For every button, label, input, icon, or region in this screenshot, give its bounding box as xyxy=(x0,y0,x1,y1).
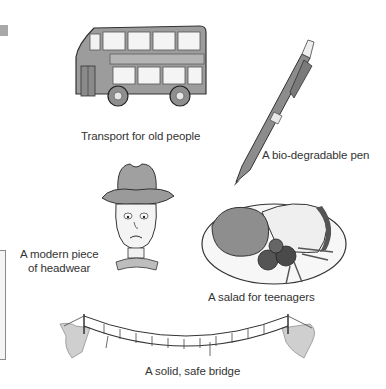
caption-pen: A bio-degradable pen xyxy=(262,148,369,162)
page-edge-tab xyxy=(0,25,8,36)
ballpoint-pen-icon xyxy=(232,36,322,186)
caption-hat-line1: A modern piece xyxy=(20,247,99,261)
caption-bridge: A solid, safe bridge xyxy=(145,364,240,378)
caption-hat-line2: of headwear xyxy=(28,261,90,275)
caption-salad: A salad for teenagers xyxy=(208,290,315,304)
double-decker-bus-icon xyxy=(68,22,208,107)
plate-of-food-icon xyxy=(198,196,348,288)
caption-bus: Transport for old people xyxy=(81,129,200,143)
side-panel-edge xyxy=(0,250,6,360)
cowboy-hat-man-icon xyxy=(100,162,180,272)
rope-bridge-icon xyxy=(60,312,320,362)
